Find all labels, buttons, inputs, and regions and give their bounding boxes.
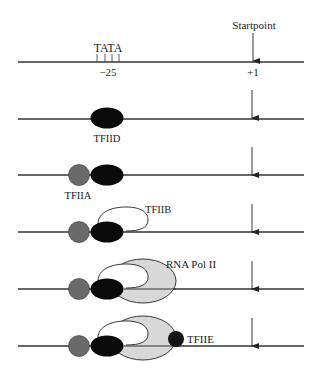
tfiie-label: TFIIE [187,333,214,345]
tfiid-shape [91,222,124,243]
tfiid-shape [91,336,124,357]
step-5-rna-pol-ii: RNA Pol II [18,258,304,303]
transcription-initiation-diagram: TATA −25 Startpoint +1 TFIID TFIIA TFIIB [0,0,318,379]
tfiid-shape [91,108,124,129]
tfiia-shape [69,222,90,243]
tfiia-label: TFIIA [65,190,92,201]
tata-label: TATA [94,41,123,55]
tfiid-shape [91,279,124,300]
step-3-tfiia: TFIIA [18,147,304,201]
tfiib-label: TFIIB [145,204,171,215]
startpoint-label: Startpoint [232,19,275,31]
tfiia-shape [69,165,90,186]
plus1-label: +1 [247,66,259,78]
tfiie-shape [168,331,184,347]
step-6-tfiie: TFIIE [18,316,304,360]
step-2-tfiid: TFIID [18,90,304,144]
rna-pol-ii-label: RNA Pol II [166,258,216,270]
tata-box-ticks [97,54,119,62]
tfiid-label: TFIID [94,133,121,144]
step-4-tfiib: TFIIB [18,204,304,243]
minus25-label: −25 [99,66,117,78]
tfiia-shape [69,279,90,300]
tfiid-shape [91,165,124,186]
tfiia-shape [69,336,90,357]
step-1-promoter: TATA −25 Startpoint +1 [18,19,304,78]
